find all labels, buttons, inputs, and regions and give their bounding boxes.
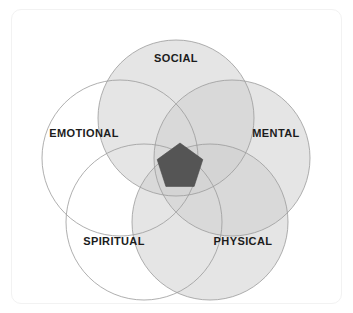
venn-label-emotional: EMOTIONAL: [49, 127, 119, 139]
venn-svg-canvas: [0, 0, 353, 313]
venn-label-mental: MENTAL: [252, 127, 299, 139]
venn-diagram: SOCIALMENTALPHYSICALSPIRITUALEMOTIONAL: [0, 0, 353, 313]
venn-label-social: SOCIAL: [154, 52, 198, 64]
venn-label-spiritual: SPIRITUAL: [83, 235, 145, 247]
circle-fill-group: [98, 40, 310, 300]
venn-label-physical: PHYSICAL: [214, 235, 273, 247]
venn-circle-fill-physical: [132, 144, 288, 300]
